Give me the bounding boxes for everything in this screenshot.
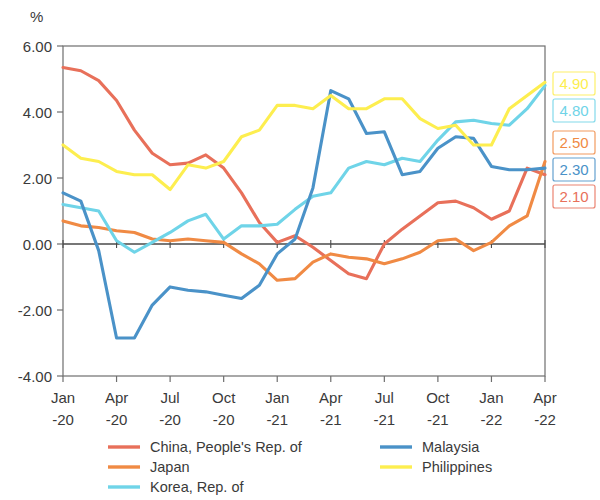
legend-label: Japan: [150, 459, 190, 475]
series-line-china-people-s-rep-of: [63, 67, 545, 278]
x-axis-tick-label-year: -22: [481, 411, 503, 428]
x-axis-tick-label-year: -21: [266, 411, 288, 428]
x-axis-tick-label-year: -20: [159, 411, 181, 428]
end-value-label-korea-rep-of: 4.80: [553, 99, 595, 122]
y-axis-tick-label: -4.00: [18, 368, 52, 385]
x-axis-tick-label-year: -21: [320, 411, 342, 428]
series-line-korea-rep-of: [63, 86, 545, 253]
end-value-label-text: 2.50: [559, 134, 588, 151]
series-line-philippines: [63, 82, 545, 189]
legend-label: Philippines: [422, 459, 492, 475]
x-axis-tick-label-month: Apr: [533, 389, 556, 406]
legend-item-china-people-s-rep-of[interactable]: China, People's Rep. of: [108, 439, 303, 455]
x-axis-tick-label-month: Apr: [319, 389, 342, 406]
y-axis-unit-label: %: [30, 8, 43, 25]
y-axis-tick-label: -2.00: [18, 302, 52, 319]
series-line-malaysia: [63, 91, 545, 338]
legend-label: China, People's Rep. of: [150, 439, 303, 455]
x-axis-tick-label-year: -20: [213, 411, 235, 428]
x-axis-tick-label-month: Jan: [265, 389, 289, 406]
end-value-label-japan: 2.50: [553, 131, 595, 154]
end-value-label-malaysia: 2.30: [553, 158, 595, 181]
end-value-label-text: 2.30: [559, 161, 588, 178]
line-chart-svg: 6.004.002.000.00-2.00-4.00Jan-20Apr-20Ju…: [0, 0, 600, 500]
y-axis-tick-label: 2.00: [23, 170, 52, 187]
legend-item-japan[interactable]: Japan: [108, 459, 190, 475]
end-value-label-text: 4.90: [559, 75, 588, 92]
x-axis-tick-label-year: -20: [106, 411, 128, 428]
x-axis-tick-label-year: -21: [373, 411, 395, 428]
x-axis-tick-label-month: Jul: [375, 389, 394, 406]
end-value-label-text: 4.80: [559, 102, 588, 119]
y-axis-tick-label: 0.00: [23, 236, 52, 253]
y-axis-tick-label: 6.00: [23, 38, 52, 55]
x-axis-tick-label-year: -20: [52, 411, 74, 428]
end-value-label-text: 2.10: [559, 188, 588, 205]
x-axis-tick-label-month: Oct: [426, 389, 450, 406]
end-value-label-china-people-s-rep-of: 2.10: [553, 185, 595, 208]
series-line-japan: [63, 162, 545, 281]
x-axis-tick-label-month: Jan: [51, 389, 75, 406]
x-axis-tick-label-year: -22: [534, 411, 556, 428]
y-axis-tick-label: 4.00: [23, 104, 52, 121]
legend-label: Korea, Rep. of: [150, 479, 244, 495]
x-axis-tick-label-year: -21: [427, 411, 449, 428]
legend-label: Malaysia: [422, 439, 480, 455]
end-value-label-philippines: 4.90: [553, 72, 595, 95]
chart-container: 6.004.002.000.00-2.00-4.00Jan-20Apr-20Ju…: [0, 0, 600, 500]
x-axis-tick-label-month: Jan: [479, 389, 503, 406]
x-axis-tick-label-month: Jul: [161, 389, 180, 406]
x-axis-tick-label-month: Oct: [212, 389, 236, 406]
legend-item-philippines[interactable]: Philippines: [380, 459, 492, 475]
x-axis-tick-label-month: Apr: [105, 389, 128, 406]
legend-item-malaysia[interactable]: Malaysia: [380, 439, 480, 455]
legend-item-korea-rep-of[interactable]: Korea, Rep. of: [108, 479, 244, 495]
